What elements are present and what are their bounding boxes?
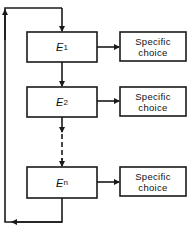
stage-subscript: 1	[63, 43, 67, 52]
stage-subscript: 2	[63, 98, 67, 107]
choice-label-2: Specific choice	[120, 87, 186, 116]
stage-letter: E	[56, 96, 63, 108]
choice-line: Specific	[135, 36, 171, 47]
choice-line: choice	[138, 47, 167, 58]
stage-label-e1: E1	[27, 32, 97, 62]
stage-letter: E	[56, 177, 63, 189]
stage-subscript: n	[63, 178, 67, 187]
choice-line: choice	[138, 182, 167, 193]
choice-line: choice	[138, 102, 167, 113]
choice-line: Specific	[135, 171, 171, 182]
choice-label-n: Specific choice	[120, 167, 186, 196]
stage-label-en: En	[27, 167, 97, 198]
stage-letter: E	[56, 41, 63, 53]
stage-label-e2: E2	[27, 87, 97, 117]
choice-label-1: Specific choice	[120, 32, 186, 61]
choice-line: Specific	[135, 91, 171, 102]
